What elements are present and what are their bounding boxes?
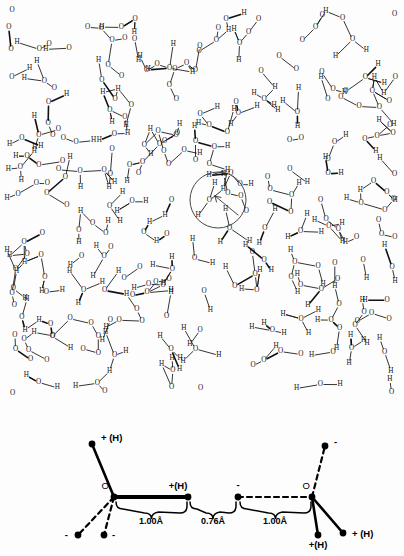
bond-label-5: - <box>334 436 337 447</box>
atom-label-hydrogen: H <box>375 60 380 68</box>
network-bond <box>87 284 99 289</box>
atom-label-oxygen: O <box>78 167 83 175</box>
network-bond <box>213 165 224 169</box>
atom-label-oxygen: O <box>40 229 45 237</box>
atom-label-oxygen: O <box>287 165 292 173</box>
network-bond <box>274 191 289 195</box>
dot-lower-right-h-a <box>315 532 322 539</box>
network-bond <box>167 296 170 313</box>
atom-label-oxygen: O <box>6 23 11 31</box>
atom-label-hydrogen: H <box>90 272 95 280</box>
network-bond <box>10 195 14 197</box>
network-bond <box>50 180 63 192</box>
atom-label-oxygen: O <box>9 73 14 81</box>
atom-label-oxygen: O <box>392 10 397 18</box>
network-bond <box>125 21 133 26</box>
atom-label-oxygen: O <box>122 34 127 42</box>
atom-label-oxygen: O <box>393 73 398 81</box>
network-bond <box>222 231 227 239</box>
network-bond <box>162 132 173 134</box>
atom-label-oxygen: O <box>197 42 202 50</box>
atom-label-oxygen: O <box>262 224 267 232</box>
network-bond <box>284 352 297 354</box>
atom-label-hydrogen: H <box>78 183 83 191</box>
atom-label-oxygen: O <box>26 346 31 354</box>
network-bond <box>38 333 50 335</box>
atom-label-oxygen: O <box>207 196 212 204</box>
atom-label-oxygen: O <box>377 103 382 111</box>
network-bond <box>305 30 313 38</box>
network-bond <box>251 22 256 29</box>
network-bond <box>103 135 111 139</box>
network-bond <box>188 151 197 153</box>
atom-label-hydrogen: H <box>288 246 293 254</box>
atom-label-hydrogen: H <box>177 365 182 373</box>
atom-label-hydrogen: H <box>241 9 246 17</box>
atom-label-oxygen: O <box>24 250 29 258</box>
atom-label-hydrogen: H <box>190 235 195 243</box>
network-bond <box>113 112 122 116</box>
atom-label-oxygen: O <box>10 389 15 397</box>
atom-label-oxygen: O <box>102 252 107 260</box>
atom-label-hydrogen: H <box>7 140 12 148</box>
network-bond <box>43 162 60 165</box>
atom-label-oxygen: O <box>193 345 198 353</box>
atom-label-hydrogen: H <box>271 101 276 109</box>
atom-label-hydrogen: H <box>116 267 121 275</box>
network-bond <box>375 314 386 317</box>
dimension-label-0: 1.00Å <box>139 516 164 526</box>
network-bond <box>202 124 205 125</box>
atom-label-oxygen: O <box>90 219 95 227</box>
network-bond <box>286 315 297 318</box>
atom-label-oxygen: O <box>36 161 41 169</box>
atom-label-hydrogen: H <box>216 351 221 359</box>
network-bond <box>67 139 73 141</box>
atom-label-oxygen: O <box>48 320 53 328</box>
atom-label-oxygen: O <box>392 233 397 241</box>
atom-label-hydrogen: H <box>125 129 130 137</box>
atom-label-hydrogen: H <box>32 328 37 336</box>
atom-label-hydrogen: H <box>22 326 27 334</box>
atom-label-oxygen: O <box>170 265 175 273</box>
atom-label-hydrogen: H <box>73 382 78 390</box>
atom-label-oxygen: O <box>99 24 104 32</box>
atom-label-oxygen: O <box>330 348 335 356</box>
atom-label-hydrogen: H <box>294 384 299 392</box>
atom-label-oxygen: O <box>73 138 78 146</box>
atom-label-oxygen: O <box>46 98 51 106</box>
atom-label-oxygen: O <box>88 319 93 327</box>
network-bond <box>337 332 339 345</box>
atom-label-oxygen: O <box>198 384 203 392</box>
network-bond <box>111 67 119 74</box>
atom-label-oxygen: O <box>298 281 303 289</box>
atom-label-hydrogen: H <box>148 150 153 158</box>
network-bond <box>120 204 129 209</box>
atom-label-oxygen: O <box>325 169 330 177</box>
atom-label-oxygen: O <box>172 65 177 73</box>
atom-label-oxygen: O <box>168 345 173 353</box>
network-bond <box>256 362 260 364</box>
atom-label-oxygen: O <box>261 356 266 364</box>
network-bond <box>344 21 351 36</box>
network-bond <box>304 232 318 233</box>
atom-label-oxygen: O <box>318 196 323 204</box>
network-bond <box>12 168 17 169</box>
atom-label-oxygen: O <box>95 379 100 387</box>
network-bond <box>365 204 382 209</box>
network-bond <box>73 258 78 262</box>
atom-label-hydrogen: H <box>273 342 278 350</box>
atom-label-hydrogen: H <box>318 73 323 81</box>
network-bond <box>42 259 45 274</box>
dot-left-oxygen <box>111 494 118 501</box>
atom-label-oxygen: O <box>119 72 124 80</box>
atom-label-hydrogen: H <box>364 46 369 54</box>
atom-label-oxygen: O <box>369 309 374 317</box>
network-bond <box>329 13 339 17</box>
atom-label-oxygen: O <box>343 87 348 95</box>
atom-label-oxygen: O <box>99 76 104 84</box>
atom-label-hydrogen: H <box>257 266 262 274</box>
network-bond <box>99 64 101 77</box>
dot-lower-left-negative-b <box>101 532 108 539</box>
network-bond <box>230 15 241 19</box>
atom-label-oxygen: O <box>225 189 230 197</box>
